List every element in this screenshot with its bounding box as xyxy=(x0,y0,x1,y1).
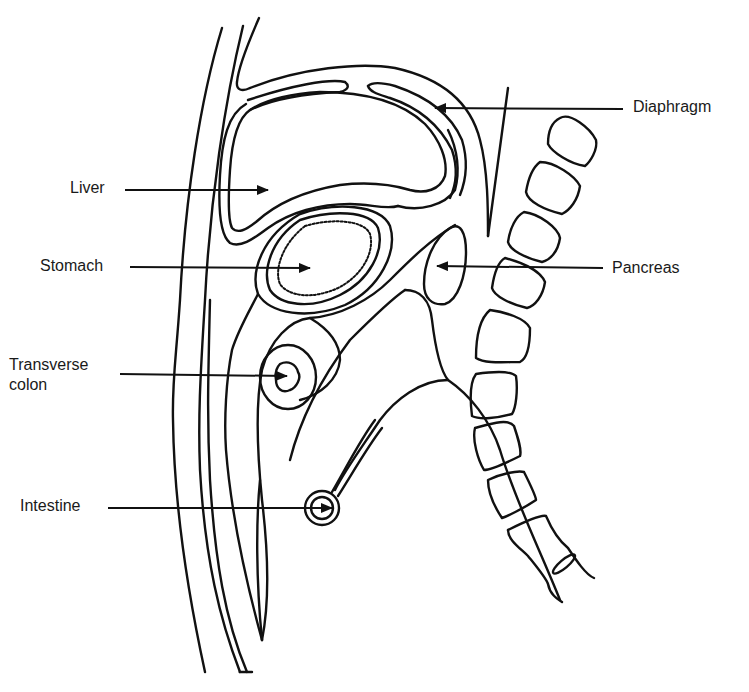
vertebra-8 xyxy=(488,471,536,518)
label-transverse-colon: Transverse colon xyxy=(9,355,88,395)
transverse-colon xyxy=(260,345,316,409)
label-pancreas: Pancreas xyxy=(612,258,680,278)
diaphragm-arrow xyxy=(435,108,623,109)
label-intestine: Intestine xyxy=(20,496,80,516)
vertebra-5 xyxy=(476,310,530,362)
vertebra-9-top xyxy=(508,516,594,578)
label-diaphragm: Diaphragm xyxy=(633,97,711,117)
sacral-ring xyxy=(551,552,578,576)
label-liver: Liver xyxy=(70,178,105,198)
diaphragm xyxy=(248,66,508,236)
vertebral-column xyxy=(471,117,597,602)
vertebra-3 xyxy=(508,212,560,262)
label-stomach: Stomach xyxy=(40,256,103,276)
peritoneum xyxy=(225,225,560,640)
pancreas-arrow xyxy=(437,266,603,268)
vertebra-1 xyxy=(548,117,596,166)
vertebra-6 xyxy=(471,372,517,418)
vertebra-4 xyxy=(492,258,545,308)
anatomy-diagram: Liver Stomach Transverse colon Intestine… xyxy=(0,0,749,692)
stomach-arrow xyxy=(130,267,310,268)
label-arrows xyxy=(108,108,623,508)
vertebra-2 xyxy=(526,162,580,214)
